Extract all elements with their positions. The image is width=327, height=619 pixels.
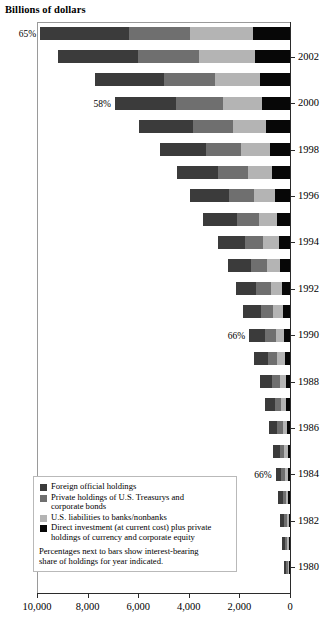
- legend-swatch-icon-1: [40, 495, 47, 502]
- x-axis-tick: [189, 593, 190, 598]
- x-axis-tick: [138, 593, 139, 598]
- legend-label-0-line-0: Foreign official holdings: [51, 482, 236, 492]
- x-axis-label: 0: [287, 601, 292, 612]
- x-axis-tick: [239, 593, 240, 598]
- legend: Foreign official holdings Private holdin…: [33, 476, 237, 572]
- x-axis-label: 4,000: [177, 601, 201, 612]
- x-axis-label: 8,000: [76, 601, 100, 612]
- legend-item-us-liabilities: U.S. liabilities to banks/nonbanks: [40, 513, 236, 523]
- legend-swatch-icon-3: [40, 525, 47, 532]
- legend-item-direct-investment: Direct investment (at current cost) plus…: [40, 523, 236, 542]
- x-axis-label: 6,000: [126, 601, 150, 612]
- legend-note-line-2: share of holdings for year indicated.: [39, 556, 237, 566]
- legend-note-line-1: Percentages next to bars show interest-b…: [39, 546, 237, 556]
- legend-label-2-line-0: U.S. liabilities to banks/nonbanks: [51, 513, 236, 523]
- x-axis-tick: [88, 593, 89, 598]
- x-axis-tick: [37, 593, 38, 598]
- x-axis-label: 10,000: [23, 601, 52, 612]
- legend-item-private-holdings: Private holdings of U.S. Treasurys and c…: [40, 493, 236, 512]
- x-axis-tick: [290, 593, 291, 598]
- legend-swatch-icon-2: [40, 515, 47, 522]
- legend-item-foreign-official-holdings: Foreign official holdings: [40, 482, 236, 492]
- legend-swatch-icon-0: [40, 484, 47, 491]
- legend-label-1-line-1: corporate bonds: [51, 502, 236, 512]
- legend-note: Percentages next to bars show interest-b…: [39, 546, 237, 566]
- chart-container: Billions of dollars 65%58%66%66% 2002200…: [0, 0, 327, 619]
- legend-label-3-line-1: holdings of currency and corporate equit…: [51, 533, 236, 543]
- x-axis-label: 2,000: [228, 601, 252, 612]
